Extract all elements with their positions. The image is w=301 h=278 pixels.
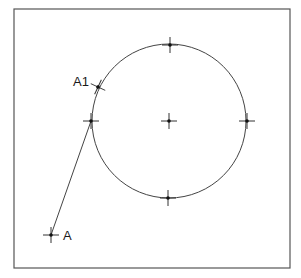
line-A-to-left-tangent — [51, 121, 91, 235]
point-A1-marker — [87, 76, 108, 97]
label-A1: A1 — [73, 74, 89, 89]
point-A-marker — [43, 227, 59, 243]
label-A: A — [63, 228, 72, 243]
point-bottom-marker — [160, 190, 176, 206]
point-top-marker — [162, 37, 178, 53]
point-center-marker — [161, 113, 177, 129]
frame-border — [14, 9, 290, 268]
point-right-marker — [239, 113, 255, 129]
diagram-canvas: A1 A — [0, 0, 301, 278]
point-left-marker — [83, 113, 99, 129]
